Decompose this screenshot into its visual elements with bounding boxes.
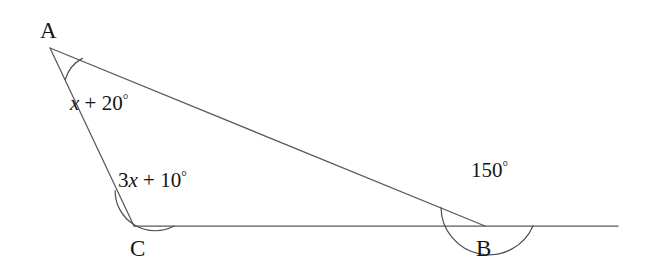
segment-a-c bbox=[50, 48, 134, 226]
angle-a-constant: 20 bbox=[102, 91, 123, 115]
angle-c-constant: 10 bbox=[160, 168, 181, 192]
triangle-angle-figure: A C B x + 20° 3x + 10° 150° bbox=[0, 0, 646, 269]
angle-c-operator: + bbox=[138, 168, 160, 192]
vertex-label-a: A bbox=[40, 18, 57, 43]
vertex-label-c: C bbox=[130, 236, 145, 261]
angle-a-operator: + bbox=[79, 91, 101, 115]
angle-arc-a bbox=[65, 58, 82, 79]
angle-label-b: 150° bbox=[471, 158, 508, 182]
angle-b-constant: 150 bbox=[471, 158, 503, 182]
angle-a-degree-symbol: ° bbox=[123, 92, 129, 107]
diagram-canvas: A C B x + 20° 3x + 10° 150° bbox=[0, 0, 646, 269]
angle-label-c: 3x + 10° bbox=[118, 168, 187, 192]
segment-a-b bbox=[50, 48, 485, 226]
angle-c-degree-symbol: ° bbox=[181, 169, 187, 184]
angle-label-a: x + 20° bbox=[69, 91, 128, 115]
angle-arc-c bbox=[115, 191, 174, 231]
vertex-label-b: B bbox=[476, 236, 491, 261]
angle-b-degree-symbol: ° bbox=[503, 159, 509, 174]
angle-c-coefficient: 3 bbox=[118, 168, 129, 192]
